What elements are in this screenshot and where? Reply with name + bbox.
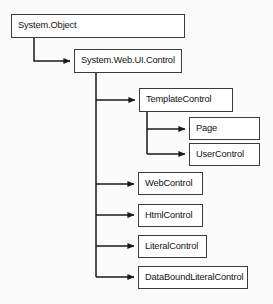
node-system-object[interactable]: System.Object (11, 14, 185, 38)
node-databound-literal-control[interactable]: DataBoundLiteralControl (138, 266, 248, 289)
node-system-web-ui-control[interactable]: System.Web.UI.Control (74, 49, 182, 73)
class-hierarchy-diagram: System.Object System.Web.UI.Control Temp… (0, 0, 273, 304)
node-html-control[interactable]: HtmlControl (138, 204, 203, 227)
edge-object-to-control (34, 38, 70, 61)
node-template-control[interactable]: TemplateControl (139, 88, 233, 112)
node-literal-control[interactable]: LiteralControl (138, 235, 207, 258)
node-user-control[interactable]: UserControl (189, 143, 260, 166)
node-web-control[interactable]: WebControl (138, 172, 203, 195)
node-page[interactable]: Page (189, 117, 260, 140)
